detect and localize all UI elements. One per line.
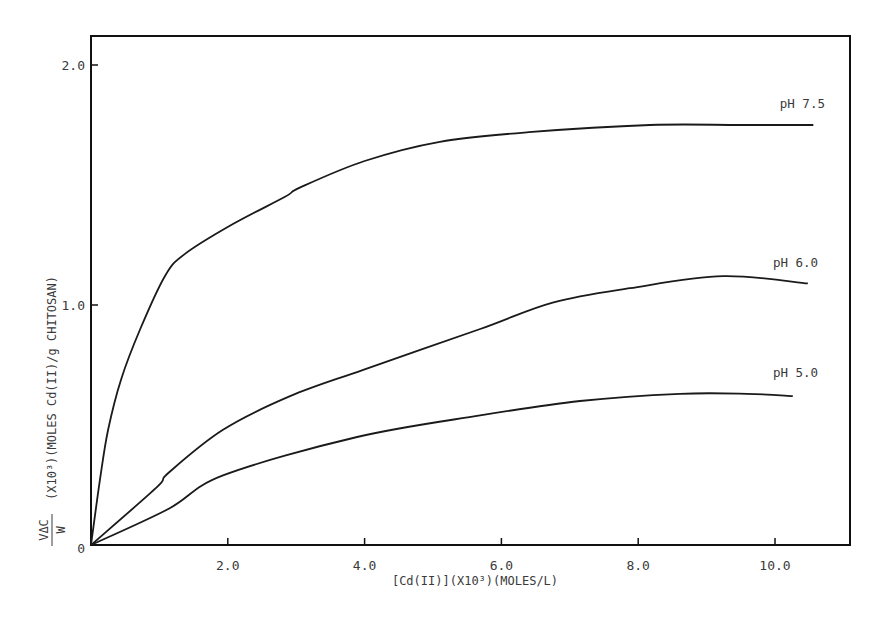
y-axis-fraction-denominator: W: [54, 526, 68, 534]
series-line-ph-6-0: [91, 276, 808, 545]
y-axis-fraction-numerator: VΔC: [37, 519, 51, 541]
plot-frame: [91, 36, 850, 545]
series-label: pH 7.5: [780, 96, 825, 111]
series-label: pH 6.0: [773, 255, 818, 270]
y-tick-label: 0: [77, 541, 85, 556]
x-tick-label: 10.0: [759, 558, 790, 573]
series-line-ph-7-5: [91, 124, 813, 545]
isotherm-chart: 2.04.06.08.010.0 01.02.0 pH 7.5pH 6.0pH …: [0, 0, 882, 630]
y-axis-title-units: (X10³)(MOLES Cd(II)/g CHITOSAN): [45, 276, 59, 500]
data-series: [91, 124, 813, 545]
x-axis-ticks: 2.04.06.08.010.0: [216, 538, 791, 573]
series-line-ph-5-0: [91, 393, 793, 545]
x-tick-label: 2.0: [216, 558, 239, 573]
x-tick-label: 4.0: [353, 558, 376, 573]
y-axis-title: VΔC W (X10³)(MOLES Cd(II)/g CHITOSAN): [37, 276, 68, 546]
y-tick-label: 2.0: [62, 58, 85, 73]
x-axis-title: [Cd(II)](X10³)(MOLES/L): [392, 574, 558, 588]
series-label: pH 5.0: [773, 365, 818, 380]
x-tick-label: 8.0: [626, 558, 649, 573]
series-labels: pH 7.5pH 6.0pH 5.0: [773, 96, 825, 380]
x-tick-label: 6.0: [490, 558, 513, 573]
y-tick-label: 1.0: [62, 298, 85, 313]
y-axis-ticks: 01.02.0: [62, 58, 98, 556]
